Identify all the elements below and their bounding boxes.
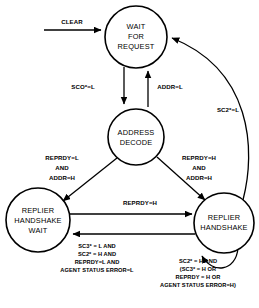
state-label-rhw-line1: REPLIER: [22, 206, 55, 215]
transition-label-wait-to-handshake: REPRDY=H: [123, 199, 157, 206]
transition-label-decode-to-wait: ADDR=L: [157, 83, 183, 90]
transition-label-self-3: REPRDY = H OR: [176, 274, 221, 280]
state-label-address-decode-line2: DECODE: [120, 138, 153, 147]
transition-label-decode-h-2: AND: [192, 164, 206, 171]
state-diagram: CLEAR SCO*=L ADDR=L SC2*=L REPRDY=L AND …: [0, 0, 259, 308]
transition-label-clear: CLEAR: [61, 18, 83, 25]
state-node-address-decode[interactable]: ADDRESS DECODE: [108, 109, 164, 165]
state-label-rhw-line2: HANDSHAKE: [14, 216, 61, 225]
transition-label-decode-h-3: ADDR=H: [186, 174, 212, 181]
transition-label-decode-hw-3: ADDR=H: [49, 174, 75, 181]
state-node-replier-handshake-wait[interactable]: REPLIER HANDSHAKE WAIT: [6, 188, 70, 252]
state-node-replier-handshake[interactable]: REPLIER HANDSHAKE: [194, 193, 254, 253]
state-label-rh-line1: REPLIER: [208, 213, 241, 222]
state-circle-address-decode[interactable]: [108, 109, 164, 165]
transition-label-h-hw-2: SC2* = H AND: [78, 251, 116, 257]
transition-handshake-to-handshake-wait: SC3* = L AND SC2* = H AND REPRDY=L AND A…: [60, 234, 195, 273]
transition-label-h-hw-3: REPRDY=L AND: [75, 259, 120, 265]
transition-label-decode-hw-1: REPRDY=L: [45, 154, 79, 161]
state-label-rhw-line3: WAIT: [29, 226, 48, 235]
state-label-address-decode-line1: ADDRESS: [118, 128, 155, 137]
state-label-rh-line2: HANDSHAKE: [200, 223, 247, 232]
transition-label-decode-h-1: REPRDY=H: [182, 154, 216, 161]
transition-clear-input: CLEAR: [44, 18, 101, 30]
state-label-wait-for-request-line2: FOR: [128, 32, 144, 41]
transition-label-wait-to-decode: SCO*=L: [71, 83, 95, 90]
transition-wait-to-handshake: REPRDY=H: [70, 199, 192, 214]
state-label-wait-for-request-line1: WAIT: [127, 22, 146, 31]
transition-label-decode-hw-2: AND: [55, 164, 69, 171]
transition-label-handshake-to-wait: SC2*=L: [217, 106, 239, 113]
transition-label-h-hw-1: SC3* = L AND: [78, 243, 115, 249]
state-diagram-canvas: CLEAR SCO*=L ADDR=L SC2*=L REPRDY=L AND …: [0, 0, 259, 308]
transition-decode-to-wait: ADDR=L: [148, 71, 183, 107]
transition-label-h-hw-4: AGENT STATUS ERROR=L: [60, 267, 134, 273]
transition-wait-to-decode: SCO*=L: [71, 67, 124, 104]
state-node-wait-for-request[interactable]: WAIT FOR REQUEST: [105, 6, 167, 68]
state-label-wait-for-request-line3: REQUEST: [118, 42, 155, 51]
transition-handshake-self-loop: SC2* = H AND (SC3* = H OR REPRDY = H OR …: [160, 248, 238, 288]
transition-label-self-2: (SC3* = H OR: [180, 266, 216, 272]
transition-label-self-1: SC2* = H AND: [179, 258, 217, 264]
transition-label-self-4: AGENT STATUS ERROR=H): [160, 282, 236, 288]
transition-decode-to-handshake: REPRDY=H AND ADDR=H: [157, 154, 216, 200]
